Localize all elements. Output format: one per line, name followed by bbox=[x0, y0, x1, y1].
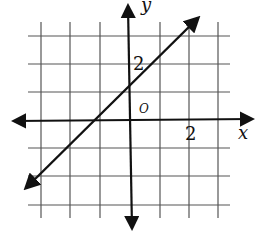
origin-label: O bbox=[139, 102, 149, 116]
y-axis-label: y bbox=[140, 0, 152, 15]
x-axis bbox=[14, 119, 252, 121]
y-tick-label-2: 2 bbox=[133, 53, 144, 74]
x-tick-label-2: 2 bbox=[185, 123, 196, 144]
x-axis-label: x bbox=[238, 122, 248, 143]
y-axis bbox=[128, 6, 132, 228]
coordinate-plane: y x O 2 2 bbox=[0, 0, 261, 232]
graphed-line bbox=[26, 18, 198, 188]
